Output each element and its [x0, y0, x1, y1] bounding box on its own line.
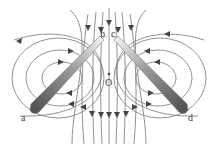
field-diagram: a b c d O	[0, 0, 216, 159]
label-c: c	[111, 28, 116, 39]
label-b: b	[100, 28, 105, 39]
label-d: d	[188, 112, 193, 123]
label-a: a	[21, 112, 26, 123]
center-dot	[108, 73, 110, 75]
diagram-canvas: a b c d O	[0, 0, 216, 159]
label-center-o: O	[105, 77, 112, 88]
